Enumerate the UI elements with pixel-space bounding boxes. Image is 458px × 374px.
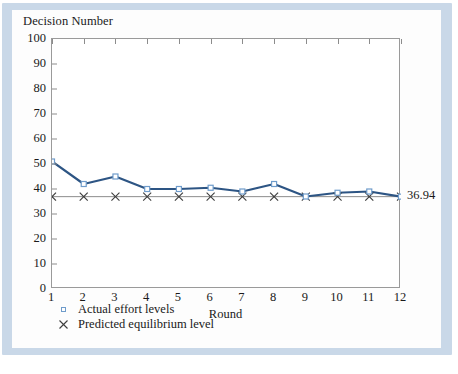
x-tick-mark	[274, 39, 275, 44]
square-marker-icon	[208, 185, 213, 190]
x-tick-label: 10	[330, 290, 343, 305]
square-marker-icon	[240, 189, 245, 194]
y-tick-label: 40	[20, 181, 46, 196]
legend-item[interactable]: Actual effort levels	[52, 302, 214, 317]
x-tick-mark	[242, 39, 243, 44]
y-tick-label: 60	[20, 131, 46, 146]
y-tick-mark	[52, 114, 57, 115]
y-tick-label: 30	[20, 206, 46, 221]
y-tick-mark	[52, 64, 57, 65]
y-tick-label: 90	[20, 56, 46, 71]
y-tick-label: 70	[20, 106, 46, 121]
x-tick-mark	[369, 39, 370, 44]
square-marker-icon	[272, 182, 277, 187]
y-axis-title: Decision Number	[23, 14, 113, 29]
y-tick-mark	[52, 89, 57, 90]
legend: Actual effort levelsPredicted equilibriu…	[52, 302, 214, 332]
x-tick-mark	[306, 39, 307, 44]
y-tick-mark	[52, 264, 57, 265]
legend-item[interactable]: Predicted equilibrium level	[52, 317, 214, 332]
cross-glyph	[58, 319, 69, 330]
x-tick-label: 11	[362, 290, 374, 305]
legend-item-label: Predicted equilibrium level	[74, 317, 214, 332]
y-tick-label: 20	[20, 231, 46, 246]
square-marker-icon	[145, 187, 150, 192]
square-marker-icon	[335, 190, 340, 195]
y-tick-mark	[52, 139, 57, 140]
square-marker-icon	[52, 307, 74, 312]
legend-item-label: Actual effort levels	[74, 302, 174, 317]
cross-marker-icon	[52, 319, 74, 330]
y-tick-mark	[52, 239, 57, 240]
x-tick-mark	[147, 39, 148, 44]
end-value-annotation: 36.94	[407, 188, 435, 203]
square-glyph	[61, 307, 66, 312]
y-tick-label: 0	[20, 281, 46, 296]
y-tick-label: 50	[20, 156, 46, 171]
y-tick-label: 80	[20, 81, 46, 96]
x-tick-label: 7	[238, 290, 244, 305]
y-tick-label: 100	[20, 31, 46, 46]
series-layer	[52, 39, 401, 289]
square-marker-icon	[399, 194, 402, 199]
square-marker-icon	[113, 174, 118, 179]
plot-area	[51, 38, 400, 288]
figure-page: Decision Number 010203040506070809010012…	[0, 0, 458, 374]
y-tick-mark	[52, 214, 57, 215]
y-tick-mark	[52, 189, 57, 190]
x-tick-mark	[401, 39, 402, 44]
x-tick-label: 12	[394, 290, 407, 305]
x-tick-mark	[338, 39, 339, 44]
x-tick-label: 9	[302, 290, 308, 305]
square-marker-icon	[176, 187, 181, 192]
x-tick-label: 8	[270, 290, 276, 305]
x-tick-mark	[84, 39, 85, 44]
x-tick-mark	[211, 39, 212, 44]
x-tick-mark	[179, 39, 180, 44]
square-marker-icon	[81, 182, 86, 187]
square-marker-icon	[367, 189, 372, 194]
y-tick-label: 10	[20, 256, 46, 271]
figure-canvas: Decision Number 010203040506070809010012…	[12, 10, 441, 348]
y-tick-mark	[52, 164, 57, 165]
square-marker-icon	[303, 194, 308, 199]
actual-effort-line	[52, 162, 401, 197]
x-tick-mark	[115, 39, 116, 44]
x-tick-mark	[52, 39, 53, 44]
